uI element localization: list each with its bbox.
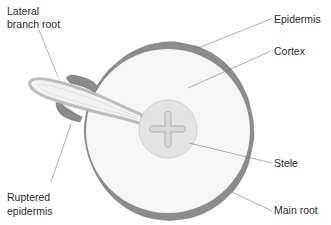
leader-main-root bbox=[232, 192, 272, 211]
label-stele: Stele bbox=[274, 157, 298, 169]
label-lateral-line1: Lateral bbox=[7, 5, 39, 17]
leader-ruptered-epidermis bbox=[51, 124, 71, 182]
label-ruptered-line2: epidermis bbox=[7, 205, 53, 217]
label-epidermis: Epidermis bbox=[274, 13, 321, 25]
label-cortex: Cortex bbox=[274, 45, 306, 57]
leader-lateral-branch-root bbox=[39, 30, 58, 77]
label-ruptered-line1: Ruptered bbox=[7, 191, 50, 203]
label-main-root: Main root bbox=[274, 204, 318, 216]
label-lateral-line2: branch root bbox=[7, 18, 60, 30]
root-cross-section-diagram: Lateral branch root Epidermis Cortex Ste… bbox=[0, 0, 331, 225]
leader-epidermis bbox=[198, 19, 271, 48]
stele bbox=[139, 100, 197, 158]
